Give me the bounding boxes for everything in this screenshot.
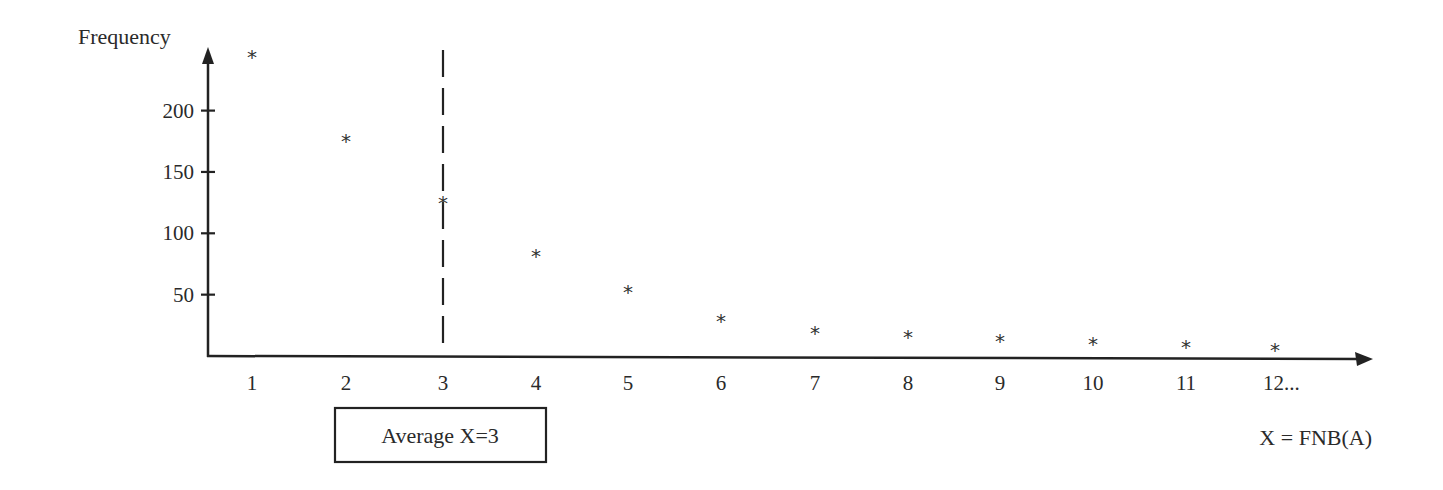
data-point-star-icon: *: [995, 329, 1005, 353]
x-tick-label: 4: [531, 371, 542, 395]
data-point-star-icon: *: [1181, 335, 1191, 359]
y-tick-label: 100: [163, 221, 195, 245]
y-tick-label: 50: [173, 283, 194, 307]
x-axis-title: X = FNB(A): [1259, 425, 1372, 450]
x-tick-label: 9: [995, 371, 1006, 395]
x-tick-label: 5: [623, 371, 634, 395]
data-point-star-icon: *: [623, 280, 633, 304]
x-tick-label: 1: [247, 371, 258, 395]
x-tick-label: 6: [716, 371, 727, 395]
x-tick-label: 8: [903, 371, 914, 395]
data-point-star-icon: *: [716, 309, 726, 333]
data-point-star-icon: *: [903, 325, 913, 349]
data-point-star-icon: *: [1270, 338, 1280, 362]
chart: Frequency 50100150200 123456789101112...…: [0, 0, 1443, 490]
x-tick-label: 12...: [1263, 371, 1300, 395]
data-point-star-icon: *: [531, 244, 541, 268]
y-axis-title: Frequency: [78, 24, 171, 49]
x-tick-label: 3: [438, 371, 449, 395]
data-point-star-icon: *: [247, 45, 257, 69]
data-point-star-icon: *: [1088, 332, 1098, 356]
data-point-star-icon: *: [810, 321, 820, 345]
x-tick-label: 11: [1176, 371, 1196, 395]
chart-background: [0, 0, 1443, 490]
data-point-star-icon: *: [341, 129, 351, 153]
x-tick-label: 7: [810, 371, 821, 395]
x-tick-label: 10: [1083, 371, 1104, 395]
average-label: Average X=3: [381, 423, 499, 448]
y-tick-label: 150: [163, 160, 195, 184]
data-point-star-icon: *: [438, 191, 448, 215]
x-tick-label: 2: [341, 371, 352, 395]
y-tick-label: 200: [163, 99, 195, 123]
